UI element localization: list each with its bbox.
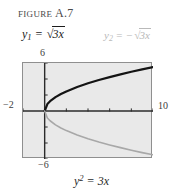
equation-y1-subscript: 1 <box>27 32 31 42</box>
figure-label-number: A.7 <box>55 6 74 20</box>
plot-panel <box>22 62 152 158</box>
caption-exponent: 2 <box>79 173 83 183</box>
equation-y1: y1 = √3x <box>22 26 65 42</box>
curve-series-2 <box>45 111 153 155</box>
caption-rhs: 3x <box>98 174 109 188</box>
axis-label-y-max: 6 <box>40 47 45 58</box>
equation-y2: y2 = −√3x <box>104 28 151 43</box>
figure-container: FIGURE A.7 y1 = √3x y2 = −√3x 6 −2 10 −6… <box>0 0 183 193</box>
figure-caption: y2 = 3x <box>0 173 183 189</box>
equation-y2-radical: √3x <box>133 28 151 41</box>
equation-y1-radicand: 3x <box>52 26 64 42</box>
plot-svg <box>23 63 153 159</box>
curve-series-1 <box>45 67 153 111</box>
axis-label-x-min: −2 <box>3 99 14 110</box>
axis-label-y-min: −6 <box>38 159 49 170</box>
equation-y2-sign: − <box>126 29 133 41</box>
figure-label-word: FIGURE <box>18 9 52 19</box>
equation-y1-equals: = <box>35 27 43 41</box>
figure-number-heading: FIGURE A.7 <box>18 6 74 21</box>
caption-equals: = <box>87 174 95 188</box>
equation-y2-radicand: 3x <box>139 28 150 41</box>
equation-y1-radical: √3x <box>46 26 65 42</box>
axis-label-x-max: 10 <box>158 100 168 111</box>
equation-y2-subscript: 2 <box>109 34 113 43</box>
equation-y2-equals: = <box>116 29 123 41</box>
axes-group <box>23 63 153 159</box>
